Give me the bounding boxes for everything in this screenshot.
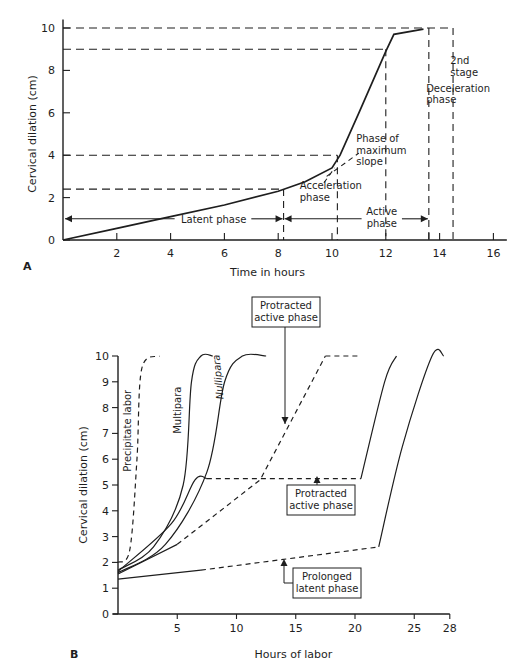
multipara-label: Multipara [172, 387, 183, 434]
x-tick-label: 14 [433, 247, 447, 260]
y-axis-title-b: Cervical dilation (cm) [77, 426, 90, 544]
series-nullipara [118, 354, 266, 573]
protracted-active-phase-label-top: Protractedactive phase [254, 300, 318, 323]
y-tick-label: 0 [48, 234, 55, 247]
y-tick-label: 8 [48, 64, 55, 77]
panel-label-a: A [23, 260, 32, 273]
series-protracted-active-phase [177, 356, 325, 544]
chart-a: AccelerationphasePhase ofmaximumslopeDec… [63, 20, 507, 240]
active-phase-label: Active [366, 206, 397, 217]
chart-b: Protractedactive phaseProtractedactive p… [112, 297, 450, 619]
x-tick-label: 5 [174, 622, 181, 635]
figure: AccelerationphasePhase ofmaximumslopeDec… [0, 0, 524, 669]
second-stage-label: 2ndstage [450, 55, 478, 78]
x-axis-title-a: Time in hours [229, 266, 305, 279]
y-tick-label: 2 [48, 192, 55, 205]
x-tick-label: 4 [167, 247, 174, 260]
y-tick-label: 7 [102, 427, 109, 440]
arrowhead-icon [285, 215, 292, 222]
series-prolonged-latent-phase [379, 349, 444, 547]
y-tick-label: 10 [41, 22, 55, 35]
panel-label-b: B [70, 648, 78, 661]
x-tick-label: 8 [275, 247, 282, 260]
x-tick-label: 28 [443, 622, 457, 635]
x-tick-label: 10 [230, 622, 244, 635]
arrowhead-icon [65, 215, 72, 222]
x-tick-label: 12 [379, 247, 393, 260]
series-prolonged-latent-phase [201, 547, 379, 570]
y-tick-label: 4 [102, 505, 109, 518]
chart-canvas: AccelerationphasePhase ofmaximumslopeDec… [0, 0, 524, 669]
protracted-active-phase-label-middle: Protractedactive phase [289, 488, 353, 511]
active-phase-label: phase [367, 218, 397, 229]
series-secondary-arrest [118, 476, 207, 571]
y-axis-title-a: Cervical dilation (cm) [26, 75, 39, 193]
y-tick-label: 1 [102, 582, 109, 595]
x-tick-label: 16 [486, 247, 500, 260]
y-tick-label: 6 [102, 453, 109, 466]
x-tick-label: 15 [289, 622, 303, 635]
y-tick-label: 9 [102, 376, 109, 389]
x-tick-label: 10 [325, 247, 339, 260]
y-tick-label: 4 [48, 149, 55, 162]
y-tick-label: 2 [102, 556, 109, 569]
precipitate-labor-label: Precipitate labor [122, 389, 133, 472]
y-tick-label: 10 [95, 350, 109, 363]
x-tick-label: 2 [113, 247, 120, 260]
prolonged-latent-phase-label: Prolongedlatent phase [296, 571, 359, 594]
y-tick-label: 6 [48, 107, 55, 120]
x-tick-label: 25 [407, 622, 421, 635]
arrowhead-icon [282, 417, 289, 424]
series-secondary-arrest [361, 356, 397, 479]
deceleration-phase-label: Decelerationphase [426, 83, 490, 106]
series-prolonged-latent-phase [118, 570, 201, 579]
arrowhead-icon [421, 215, 428, 222]
arrowhead-icon [276, 215, 283, 222]
latent-phase-label: Latent phase [181, 214, 246, 225]
y-tick-label: 3 [102, 531, 109, 544]
y-tick-label: 0 [102, 608, 109, 621]
acceleration-phase-label: Accelerationphase [300, 180, 362, 203]
nullipara-label: Nullipara [211, 354, 226, 400]
x-tick-label: 6 [221, 247, 228, 260]
x-axis-title-b: Hours of labor [254, 648, 332, 661]
arrowhead-icon [314, 476, 321, 483]
x-tick-label: 20 [348, 622, 362, 635]
y-tick-label: 8 [102, 402, 109, 415]
y-tick-label: 5 [102, 479, 109, 492]
maximum-slope-label: Phase ofmaximumslope [356, 133, 406, 167]
